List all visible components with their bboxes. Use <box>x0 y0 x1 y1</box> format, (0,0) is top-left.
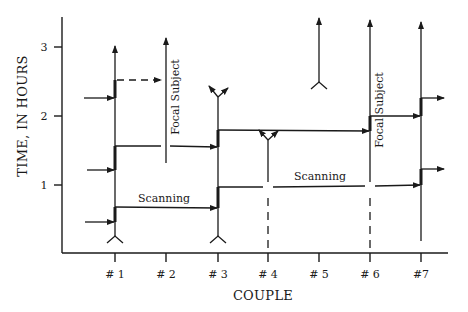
couple-5-timeline <box>311 18 327 89</box>
end-fork-arrow-icon <box>218 88 228 97</box>
focal-subject-label-1: Focal Subject <box>169 59 182 135</box>
end-fork-arrow-icon <box>209 86 218 97</box>
y-tick-label-3: 3 <box>41 41 48 54</box>
x-tick-label-4: # 4 <box>258 268 278 281</box>
y-tick-label-2: 2 <box>41 110 48 123</box>
couple-observation-diagram: 3 2 1 TIME, IN HOURS # 1 # 2 # 3 # 4 # 5… <box>0 0 468 312</box>
couple-3-timeline <box>209 86 420 243</box>
x-tick-label-5: # 5 <box>309 268 329 281</box>
couple-1-timeline <box>84 46 217 243</box>
x-tick-label-6: # 6 <box>360 268 380 281</box>
end-fork-arrow-icon <box>268 131 278 140</box>
focal-subject-label-2: Focal Subject <box>373 72 386 148</box>
axes <box>54 17 448 262</box>
scanning-label-2: Scanning <box>294 170 346 183</box>
diagram-svg: 3 2 1 TIME, IN HOURS # 1 # 2 # 3 # 4 # 5… <box>0 0 468 312</box>
x-tick-label-1: # 1 <box>105 268 125 281</box>
x-tick-label-3: # 3 <box>208 268 228 281</box>
y-tick-label-1: 1 <box>41 179 48 192</box>
couple-7-timeline <box>421 22 444 241</box>
x-tick-label-7: #7 <box>413 268 429 281</box>
start-fork-icon <box>107 236 123 243</box>
scanning-label-1: Scanning <box>138 192 190 205</box>
start-fork-icon <box>210 236 226 243</box>
couple-4-timeline <box>259 130 278 248</box>
x-tick-label-2: # 2 <box>156 268 176 281</box>
start-fork-icon <box>311 82 327 89</box>
x-axis-title: COUPLE <box>233 288 293 303</box>
y-axis-title: TIME, IN HOURS <box>15 55 30 176</box>
end-fork-arrow-icon <box>259 130 268 140</box>
timelines <box>84 18 444 248</box>
